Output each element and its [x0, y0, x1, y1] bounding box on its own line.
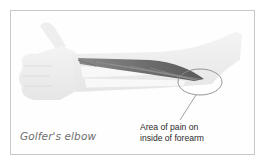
leader-line	[180, 95, 196, 120]
annotation-line-2: inside of forearm	[140, 133, 204, 144]
pain-annotation: Area of pain on inside of forearm	[140, 122, 204, 144]
figure-caption: Golfer's elbow	[20, 130, 96, 142]
annotation-line-1: Area of pain on	[140, 122, 204, 133]
hand-shape	[19, 46, 78, 100]
